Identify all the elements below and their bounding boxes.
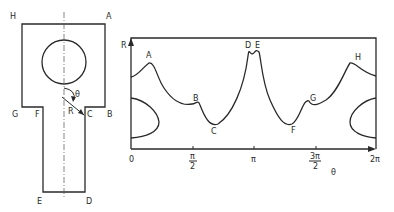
label-B: B xyxy=(107,110,113,119)
point-F: F xyxy=(291,126,296,135)
label-G: G xyxy=(12,110,18,119)
radius-label: R xyxy=(68,107,74,116)
x-tick-pi-half: π 2 xyxy=(189,152,197,171)
point-G: G xyxy=(310,94,316,103)
point-E: E xyxy=(255,41,260,50)
svg-text:2: 2 xyxy=(313,162,318,171)
y-axis-arrow-icon xyxy=(128,38,134,46)
label-E: E xyxy=(37,197,42,206)
label-A: A xyxy=(106,12,112,21)
point-H: H xyxy=(355,53,361,62)
y-axis-label: R xyxy=(121,41,127,50)
svg-text:π: π xyxy=(190,152,195,161)
label-C: C xyxy=(87,110,93,119)
label-H: H xyxy=(10,12,16,21)
point-C: C xyxy=(211,127,217,136)
point-B: B xyxy=(193,94,199,103)
diagram-canvas: H A B C D E F G θ R R A B C D E F G H 0 … xyxy=(0,0,394,212)
x-tick-0: 0 xyxy=(129,155,134,164)
point-D: D xyxy=(245,41,251,50)
point-A: A xyxy=(146,51,152,60)
x-axis-label: θ xyxy=(331,168,336,177)
r-theta-curve xyxy=(131,51,376,138)
theta-label: θ xyxy=(75,90,80,99)
x-axis-arrow-icon xyxy=(368,146,376,152)
label-F: F xyxy=(35,110,40,119)
plot-frame xyxy=(128,38,376,152)
label-D: D xyxy=(86,197,92,206)
svg-text:3π: 3π xyxy=(310,152,320,161)
x-tick-2pi: 2π xyxy=(370,155,380,164)
svg-text:2: 2 xyxy=(190,162,195,171)
keyhole-shape xyxy=(22,12,105,198)
x-tick-3pi-half: 3π 2 xyxy=(309,152,321,171)
x-tick-pi: π xyxy=(251,155,256,164)
